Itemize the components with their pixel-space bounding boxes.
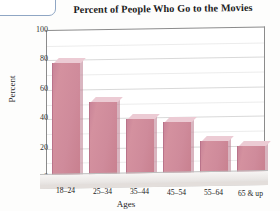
bar-top-face xyxy=(54,58,86,63)
x-axis-tick-label: 35–44 xyxy=(122,187,157,196)
chart-container: Percent of People Who Go to the Movies 0… xyxy=(0,0,280,211)
bar xyxy=(163,122,190,178)
bar-series xyxy=(46,30,265,178)
x-axis-tick-label: 55–64 xyxy=(196,188,231,197)
x-axis-tick-label: 18–24 xyxy=(48,186,83,195)
bar xyxy=(52,63,79,178)
x-axis-title-text: Ages xyxy=(117,199,136,209)
bar-front-face xyxy=(89,102,117,178)
bar-front-face xyxy=(163,122,191,178)
chart-title: Percent of People Who Go to the Movies xyxy=(56,2,270,16)
bar-front-face xyxy=(52,63,80,178)
bar-top-face xyxy=(128,114,160,119)
x-axis-tick-label: 25–34 xyxy=(85,187,120,196)
x-axis-tick-label: 45–54 xyxy=(159,188,194,197)
x-axis-tick-label: 65 & up xyxy=(233,189,268,198)
y-axis-title: Percent xyxy=(7,76,17,103)
x-axis-title: Ages xyxy=(0,199,280,209)
bar-front-face xyxy=(126,119,154,178)
bar xyxy=(89,102,116,178)
y-axis: 020406080100 xyxy=(24,22,48,186)
x-axis-labels: 18–2425–3435–4445–5455–6465 & up xyxy=(40,186,272,200)
bar-top-face xyxy=(165,117,197,122)
bar xyxy=(126,119,153,178)
scan-artifact-box xyxy=(0,0,56,16)
bar-top-face xyxy=(202,136,234,141)
bar-top-face xyxy=(91,97,123,102)
bar-top-face xyxy=(239,141,271,146)
